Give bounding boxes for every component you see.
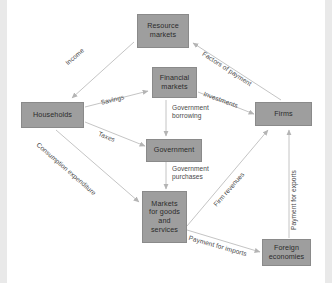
node-government[interactable]: Government <box>146 139 202 162</box>
node-label: Firms <box>272 110 294 119</box>
flow-label-government-purchases: Government purchases <box>172 165 218 180</box>
node-label-line2: markets <box>145 31 181 40</box>
node-households[interactable]: Households <box>21 102 84 128</box>
node-foreign-economies[interactable]: Foreign economies <box>262 239 311 266</box>
node-firms[interactable]: Firms <box>255 102 312 126</box>
flow-label-payment-for-exports: Payment for exports <box>290 170 298 230</box>
flow-label-line1: Government <box>172 165 209 172</box>
node-label: Government <box>152 146 197 155</box>
arrow-taxes <box>85 122 145 146</box>
node-label-line2: economies <box>267 253 307 262</box>
node-financial-markets[interactable]: Financial markets <box>152 67 197 98</box>
circular-flow-diagram: Resource markets Financial markets House… <box>0 0 332 283</box>
flow-label-government-borrowing: Government borrowing <box>172 104 218 119</box>
node-label-line2: markets <box>158 83 192 92</box>
node-label: Households <box>31 111 74 120</box>
node-markets-for-goods-and-services[interactable]: Markets for goods and services <box>142 191 187 243</box>
flow-label-line2: purchases <box>172 173 203 180</box>
node-resource-markets[interactable]: Resource markets <box>137 14 189 48</box>
flow-label-line2: borrowing <box>172 112 201 119</box>
node-label-line4: services <box>147 226 182 235</box>
flow-label-line1: Government <box>172 104 209 111</box>
